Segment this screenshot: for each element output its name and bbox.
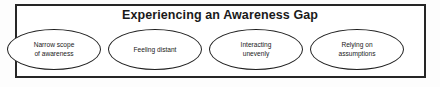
node-label: Feeling distant — [116, 29, 194, 70]
awareness-gap-diagram: Experiencing an Awareness Gap Narrow sco… — [0, 0, 440, 87]
node-label: Interacting unevenly — [217, 29, 295, 70]
node-label: Relying on assumptions — [318, 29, 396, 70]
node-label: Narrow scope of awareness — [15, 29, 93, 70]
node-row: Narrow scope of awareness Feeling distan… — [7, 28, 404, 70]
diagram-title: Experiencing an Awareness Gap — [0, 8, 440, 22]
node-relying-on-assumptions[interactable]: Relying on assumptions — [310, 29, 404, 70]
node-feeling-distant[interactable]: Feeling distant — [108, 29, 202, 70]
node-interacting-unevenly[interactable]: Interacting unevenly — [209, 29, 303, 70]
node-narrow-scope-of-awareness[interactable]: Narrow scope of awareness — [7, 29, 101, 70]
